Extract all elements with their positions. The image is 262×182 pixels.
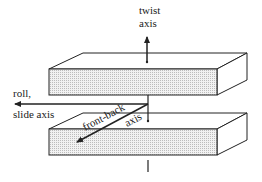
twist-axis-label-line2: axis (139, 17, 157, 29)
center-shaft-dot (147, 120, 149, 122)
upper-block (49, 53, 247, 95)
axes-diagram: twist axis roll, slide axis front-back a… (0, 0, 262, 182)
roll-axis-label-line2: slide axis (13, 108, 54, 120)
upper-block-front-face (49, 69, 217, 95)
twist-axis-origin-dot (146, 61, 148, 63)
upper-block-top-face (49, 53, 247, 69)
twist-axis-label-line1: twist (139, 4, 160, 16)
lower-block-front-face (49, 129, 217, 155)
roll-axis-label-line1: roll, (13, 87, 31, 99)
